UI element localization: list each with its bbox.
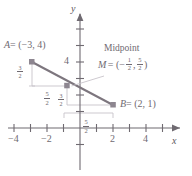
point-m-marker: [64, 83, 70, 89]
rise-left-denominator: 2: [18, 73, 23, 79]
x-tick-label-minus-4: −4: [8, 134, 19, 144]
point-a-label: A= (−3, 4): [4, 40, 46, 50]
midpoint-variable: M: [98, 60, 106, 70]
point-a-equation: = (−3, 4): [10, 39, 45, 50]
run-mid-fraction: 5 2: [44, 91, 50, 106]
x-axis-arrowhead: [172, 125, 180, 132]
midpoint-y-numerator: 5: [137, 57, 142, 64]
midpoint-y-denominator: 2: [137, 65, 142, 72]
midpoint-leader-line: [72, 76, 105, 86]
x-tick-label-minus-2: −2: [41, 134, 52, 144]
run-axis-denominator: 2: [83, 128, 88, 135]
rise-left-numerator: 3: [18, 65, 23, 71]
point-b-equation: = (2, 1): [126, 98, 156, 109]
x-axis-label: x: [172, 136, 176, 146]
midpoint-figure: A= (−3, 4) Midpoint M = (− 1 2 , 5 2 ) B…: [0, 0, 192, 176]
rise-mid-fraction: 3 2: [58, 93, 64, 107]
run-mid-label: 5 2: [44, 90, 50, 107]
run-axis-label: 5 2: [83, 118, 89, 135]
point-b-label: B= (2, 1): [120, 99, 156, 109]
midpoint-x-denominator: 2: [127, 65, 132, 72]
point-a-marker: [29, 59, 35, 65]
rise-mid-denominator: 2: [59, 101, 64, 107]
midpoint-y-fraction: 5 2: [137, 57, 143, 72]
y-axis-arrowhead: [77, 13, 84, 21]
midpoint-x-fraction: 1 2: [126, 57, 132, 72]
axes: [8, 14, 180, 170]
x-tick-label-2: 2: [110, 134, 115, 144]
midpoint-x-numerator: 1: [127, 57, 132, 64]
y-tick-label-4: 4: [64, 56, 69, 66]
midpoint-eq-open: = (−: [106, 60, 126, 70]
midpoint-eq-close: ): [143, 60, 147, 70]
y-axis-label: y: [71, 4, 75, 14]
rise-left-fraction: 3 2: [17, 65, 23, 79]
run-axis-numerator: 5: [83, 119, 88, 126]
run-mid-numerator: 5: [44, 91, 49, 98]
midpoint-title: Midpoint: [104, 44, 139, 54]
point-b-marker: [110, 102, 116, 108]
rise-mid-label: 3 2: [58, 91, 64, 107]
rise-left-label: 3 2: [17, 63, 23, 79]
coordinate-plane-svg: [0, 0, 192, 176]
midpoint-label: M = (− 1 2 , 5 2 ): [98, 57, 147, 72]
x-tick-label-4: 4: [143, 134, 148, 144]
run-mid-denominator: 2: [44, 100, 49, 107]
run-axis-fraction: 5 2: [83, 119, 89, 134]
rise-mid-numerator: 3: [59, 93, 64, 99]
